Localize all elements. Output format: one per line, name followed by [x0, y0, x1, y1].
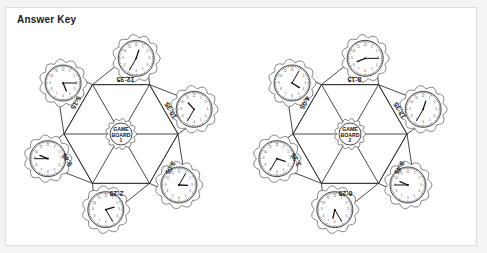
flap-left[interactable]: 1234567891011129:45: [25, 134, 93, 183]
clock-face: 123456789101112: [385, 161, 432, 209]
time-label: 2:25: [109, 190, 123, 197]
game-board-2: 1234567891011124:051234567891011128:1512…: [240, 26, 460, 244]
clock-face: 123456789101112: [156, 161, 203, 209]
flap-top-left[interactable]: 1234567891011124:05: [269, 59, 322, 134]
worksheet-page: Answer Key 1234567891011125:151234567891…: [5, 7, 477, 246]
flap-top-right[interactable]: 12345678910111212:35: [93, 34, 161, 84]
clock-face: 123456789101112: [342, 34, 389, 82]
center-label-number: 2: [349, 137, 352, 143]
flap-top-left[interactable]: 1234567891011125:15: [40, 59, 93, 134]
flap-bottom-right[interactable]: 1234567891011123:05: [150, 134, 204, 209]
time-label: 6:25: [338, 190, 352, 197]
flap-top-right[interactable]: 1234567891011128:15: [322, 34, 390, 84]
flap-bottom-right[interactable]: 1234567891011129:45: [379, 134, 433, 209]
page-title: Answer Key: [17, 14, 76, 25]
clock-face: 123456789101112: [171, 85, 218, 133]
clock-face: 123456789101112: [113, 34, 160, 82]
flap-bottom-left[interactable]: 1234567891011122:25: [83, 183, 150, 233]
game-board-1: 1234567891011125:1512345678910111212:351…: [11, 26, 231, 244]
center-label-number: 1: [120, 137, 123, 143]
flap-bottom-left[interactable]: 1234567891011126:25: [312, 183, 379, 233]
flap-right[interactable]: 12345678910111210:35: [150, 85, 219, 134]
flap-left[interactable]: 1234567891011123:35: [254, 134, 322, 183]
center-badge: GAMEBOARD1: [106, 118, 137, 149]
time-label: 8:15: [347, 76, 361, 83]
flap-right[interactable]: 12345678910111212:35: [379, 85, 448, 134]
clock-face: 123456789101112: [400, 85, 447, 133]
time-label: 12:35: [116, 76, 134, 83]
center-badge: GAMEBOARD2: [335, 118, 366, 149]
